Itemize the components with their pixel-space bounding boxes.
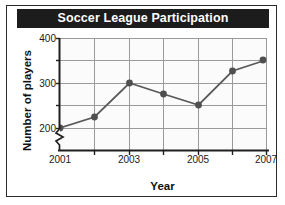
x-tick-label-2005: 2005 <box>181 155 215 165</box>
x-axis-tick-labels: 2001 2003 2005 2007 <box>0 155 285 169</box>
x-tick-label-2007: 2007 <box>249 155 283 165</box>
x-tick-label-2003: 2003 <box>112 155 146 165</box>
y-axis-break-icon <box>56 129 63 150</box>
x-tick-label-2001: 2001 <box>43 155 77 165</box>
chart-page: Soccer League Participation Number of pl… <box>0 0 285 205</box>
x-axis-title: Year <box>55 180 270 192</box>
axis-lines-layer <box>0 0 285 205</box>
